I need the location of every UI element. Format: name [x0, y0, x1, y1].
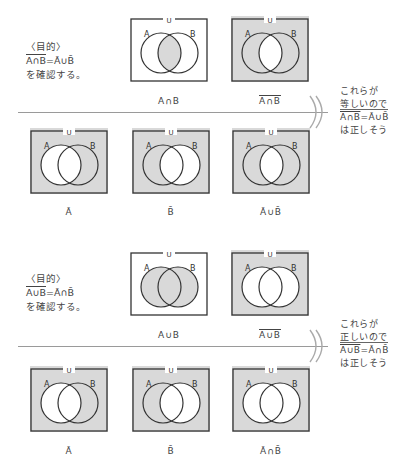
diagram-caption: B̄ [132, 446, 210, 456]
set-b-label: B [291, 264, 297, 273]
equivalence-arc-icon [306, 328, 330, 368]
universe-label: U [267, 17, 272, 25]
venn-diagram: U A B [231, 250, 309, 316]
venn-diagram: U A B [232, 366, 310, 432]
diagram-caption: A∩B [231, 96, 309, 106]
universe-label: U [166, 251, 171, 259]
conclusion-emphasis: 正しいので [340, 332, 388, 343]
formula-rhs: =Ā∩B̄ [360, 345, 388, 355]
set-a-label: A [245, 264, 251, 273]
conclusion-emphasis: 等しいので [340, 99, 388, 110]
conclusion-line: これらが [340, 318, 389, 331]
venn-diagram: U A B [132, 128, 210, 194]
purpose-heading: 〈目的〉 [26, 272, 86, 286]
purpose-formula: A∩B=Ā∪B̄ [26, 54, 86, 68]
purpose-note: 〈目的〉 A∩B=Ā∪B̄ を確認する。 [26, 40, 86, 82]
diagram-caption: A∪B [231, 330, 309, 340]
venn-diagram: U A B [130, 250, 208, 316]
diagram-caption: Ā [30, 207, 108, 217]
formula-lhs: A∩B [26, 55, 46, 66]
formula-lhs: A∪B [340, 345, 360, 355]
set-b-label: B [292, 380, 298, 389]
set-a-label: A [44, 380, 50, 389]
set-a-label: A [246, 380, 252, 389]
set-b-label: B [190, 30, 196, 39]
universe-label: U [268, 129, 273, 137]
diagram-caption: B̄ [132, 207, 210, 217]
set-b-label: B [291, 30, 297, 39]
purpose-action: を確認する。 [26, 300, 86, 314]
purpose-note: 〈目的〉 A∪B=Ā∩B̄ を確認する。 [26, 272, 86, 314]
set-a-label: A [246, 142, 252, 151]
venn-diagram: U A B [30, 366, 108, 432]
conclusion-formula: A∪B=Ā∩B̄ [340, 344, 389, 357]
purpose-heading: 〈目的〉 [26, 40, 86, 54]
diagram-caption: Ā∩B̄ [232, 446, 310, 456]
conclusion-line: は正しそう [340, 357, 389, 370]
universe-label: U [168, 367, 173, 375]
set-b-label: B [192, 380, 198, 389]
conclusion-note: これらが 等しいので A∩B=Ā∪B̄ は正しそう [340, 85, 389, 137]
universe-label: U [66, 367, 71, 375]
conclusion-note: これらが 正しいので A∪B=Ā∩B̄ は正しそう [340, 318, 389, 370]
conclusion-line: は正しそう [340, 124, 389, 137]
venn-diagram: U A B [30, 128, 108, 194]
set-b-label: B [90, 142, 96, 151]
universe-label: U [166, 17, 171, 25]
diagram-caption: Ā∪B̄ [232, 207, 310, 217]
universe-label: U [168, 129, 173, 137]
formula-lhs: A∩B [340, 112, 360, 122]
formula-rhs: =Ā∪B̄ [46, 55, 74, 66]
formula-rhs: =Ā∪B̄ [360, 112, 388, 122]
formula-lhs: A∪B [26, 287, 46, 298]
set-a-label: A [245, 30, 251, 39]
purpose-formula: A∪B=Ā∩B̄ [26, 286, 86, 300]
divider-line [18, 112, 328, 113]
set-a-label: A [144, 30, 150, 39]
set-a-label: A [44, 142, 50, 151]
diagram-caption: Ā [30, 446, 108, 456]
set-a-label: A [146, 142, 152, 151]
venn-diagram: U A B [130, 16, 208, 82]
set-b-label: B [192, 142, 198, 151]
set-a-label: A [144, 264, 150, 273]
set-b-label: B [90, 380, 96, 389]
conclusion-line: 等しいので [340, 98, 389, 111]
venn-diagram: U A B [231, 16, 309, 82]
venn-diagram: U A B [132, 366, 210, 432]
divider-line [18, 346, 328, 347]
universe-label: U [268, 367, 273, 375]
venn-diagram: U A B [232, 128, 310, 194]
conclusion-formula: A∩B=Ā∪B̄ [340, 111, 389, 124]
diagram-caption: A∩B [130, 96, 208, 106]
conclusion-line: 正しいので [340, 331, 389, 344]
universe-label: U [66, 129, 71, 137]
formula-rhs: =Ā∩B̄ [46, 287, 74, 298]
set-b-label: B [292, 142, 298, 151]
set-a-label: A [146, 380, 152, 389]
conclusion-line: これらが [340, 85, 389, 98]
purpose-action: を確認する。 [26, 68, 86, 82]
set-b-label: B [190, 264, 196, 273]
universe-label: U [267, 251, 272, 259]
diagram-caption: A∪B [130, 330, 208, 340]
